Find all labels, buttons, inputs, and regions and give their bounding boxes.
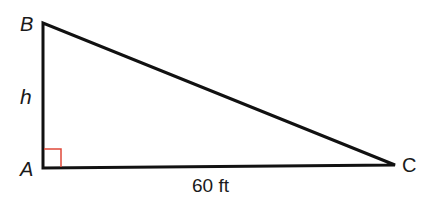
- vertex-label-c: C: [402, 155, 416, 175]
- side-label-base: 60 ft: [192, 176, 229, 195]
- vertex-label-b: B: [20, 14, 33, 34]
- side-label-h: h: [20, 86, 32, 107]
- triangle-diagram: B h A C 60 ft: [0, 0, 424, 206]
- vertex-label-a: A: [20, 159, 33, 179]
- triangle-abc: [43, 23, 395, 168]
- right-angle-marker: [44, 149, 61, 167]
